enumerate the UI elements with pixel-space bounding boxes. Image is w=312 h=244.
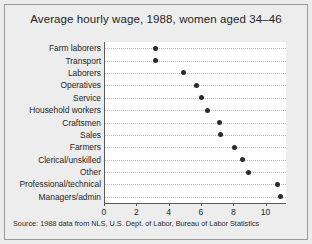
- grid-line: [105, 48, 286, 49]
- plot-area: [104, 42, 286, 204]
- y-axis-tick-label: Household workers: [3, 105, 101, 115]
- x-axis-tick-mark: [104, 203, 105, 206]
- chart-title: Average hourly wage, 1988, women aged 34…: [0, 13, 312, 25]
- data-point: [232, 145, 237, 150]
- y-axis-tick-label: Service: [3, 93, 101, 103]
- grid-line: [105, 135, 286, 136]
- grid-line: [105, 197, 286, 198]
- chart-figure: Average hourly wage, 1988, women aged 34…: [0, 0, 312, 244]
- source-note: Source: 1988 data from NLS, U.S. Dept. o…: [13, 219, 259, 228]
- data-point: [194, 83, 199, 88]
- y-axis-tick-label: Farmers: [3, 142, 101, 152]
- plot-inner: [105, 42, 286, 203]
- x-axis-tick-mark: [169, 203, 170, 206]
- grid-line: [105, 123, 286, 124]
- data-point: [246, 170, 251, 175]
- y-axis-tick-label: Clerical/unskilled: [3, 155, 101, 165]
- data-point: [218, 132, 223, 137]
- y-axis-tick-label: Managers/admin: [3, 192, 101, 202]
- data-point: [153, 46, 158, 51]
- x-axis-tick-label: 8: [231, 207, 236, 217]
- grid-line: [105, 61, 286, 62]
- data-point: [181, 70, 186, 75]
- x-axis-tick-label: 0: [102, 207, 107, 217]
- y-axis-tick-label: Professional/technical: [3, 179, 101, 189]
- y-axis-tick-label: Operatives: [3, 80, 101, 90]
- data-point: [153, 58, 158, 63]
- y-axis-tick-label: Laborers: [3, 68, 101, 78]
- x-axis-tick-mark: [201, 203, 202, 206]
- grid-line: [105, 184, 286, 185]
- y-axis-tick-label: Transport: [3, 56, 101, 66]
- grid-line: [105, 73, 286, 74]
- data-point: [199, 95, 204, 100]
- y-axis-tick-label: Sales: [3, 130, 101, 140]
- x-axis-tick-mark: [266, 203, 267, 206]
- data-point: [217, 120, 222, 125]
- data-point: [205, 108, 210, 113]
- y-axis-tick-label: Farm laborers: [3, 43, 101, 53]
- grid-line: [105, 172, 286, 173]
- grid-line: [105, 147, 286, 148]
- x-axis-tick-label: 2: [134, 207, 139, 217]
- grid-line: [105, 110, 286, 111]
- x-axis-tick-label: 10: [261, 207, 271, 217]
- data-point: [275, 182, 280, 187]
- x-axis-tick-mark: [136, 203, 137, 206]
- x-axis-tick-mark: [233, 203, 234, 206]
- y-axis-tick-label: Other: [3, 167, 101, 177]
- grid-line: [105, 98, 286, 99]
- y-axis-category-labels: Farm laborersTransportLaborersOperatives…: [0, 42, 101, 203]
- data-point: [240, 157, 245, 162]
- x-axis-tick-label: 6: [199, 207, 204, 217]
- x-axis-tick-label: 4: [166, 207, 171, 217]
- grid-line: [105, 160, 286, 161]
- y-axis-tick-label: Craftsmen: [3, 118, 101, 128]
- data-point: [278, 194, 283, 199]
